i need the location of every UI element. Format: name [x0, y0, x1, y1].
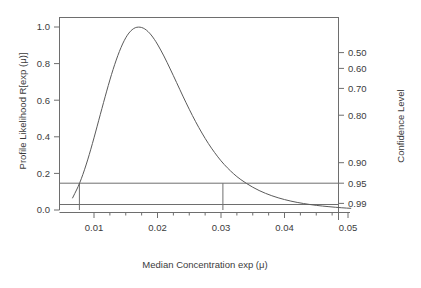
y-tick-label: 1.0: [37, 21, 50, 32]
y2-tick-label-group: 0.500.600.700.800.900.950.99: [348, 47, 367, 209]
x-axis-title: Median Concentration exp (μ): [142, 259, 267, 270]
y-tick-label: 0.8: [37, 58, 50, 69]
x-tick-label-group: 0.010.020.030.040.05: [85, 222, 358, 233]
y-tick-label-group: 0.00.20.40.60.81.0: [37, 21, 50, 215]
y2-tick-label: 0.60: [348, 63, 367, 74]
right-axis: 0.500.600.700.800.900.950.99: [339, 47, 367, 220]
y2-tick-label: 0.95: [348, 178, 367, 189]
x-tick-label: 0.02: [148, 222, 167, 233]
y2-tick-label: 0.70: [348, 83, 367, 94]
y2-tick-group: [339, 53, 345, 204]
chart-figure: 0.00.20.40.60.81.0 0.500.600.700.800.900…: [0, 0, 421, 288]
y2-tick-label: 0.99: [348, 198, 367, 209]
x-tick-label: 0.05: [339, 222, 358, 233]
y-tick-label: 0.6: [37, 95, 50, 106]
x-tick-group: [94, 213, 348, 219]
y-tick-label: 0.0: [37, 204, 50, 215]
y-tick-group: [54, 27, 60, 210]
y-tick-label: 0.4: [37, 131, 50, 142]
y2-tick-label: 0.80: [348, 110, 367, 121]
left-axis: 0.00.20.40.60.81.0: [37, 21, 60, 215]
bottom-axis: 0.010.020.030.040.05: [60, 213, 358, 234]
y-tick-label: 0.2: [37, 168, 50, 179]
x-tick-label: 0.03: [212, 222, 231, 233]
y2-tick-label: 0.50: [348, 47, 367, 58]
y-axis-title: Profile Likelihood R[exp (μ)]: [17, 53, 28, 170]
x-tick-label: 0.01: [85, 222, 104, 233]
x-tick-label: 0.04: [275, 222, 294, 233]
y2-axis-title: Confidence Level: [395, 89, 406, 162]
profile-likelihood-chart: 0.00.20.40.60.81.0 0.500.600.700.800.900…: [0, 0, 421, 288]
y2-tick-label: 0.90: [348, 157, 367, 168]
profile-likelihood-curve: [72, 27, 351, 208]
